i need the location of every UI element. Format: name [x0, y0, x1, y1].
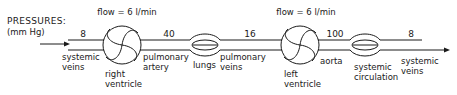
label-left-ventricle: left — [284, 69, 298, 79]
pressure-value: 100 — [326, 29, 343, 39]
label-systemic-circulation: circulation — [354, 72, 398, 82]
flow-label-left: flow = 6 l/min — [276, 7, 335, 17]
label-pulmonary-artery: pulmonary — [143, 52, 189, 62]
input-arrow-icon — [40, 42, 70, 47]
vessel-systemic-veins-out — [380, 40, 422, 50]
label-pulmonary-veins: veins — [220, 62, 243, 72]
label-systemic-veins-in: veins — [62, 62, 85, 72]
vessel-aorta — [322, 40, 350, 50]
pressure-value: 40 — [163, 29, 175, 39]
output-arrow-icon — [422, 48, 450, 53]
pressure-value: 8 — [408, 29, 414, 39]
label-pulmonary-veins: pulmonary — [220, 52, 266, 62]
systemic-circulation-icon — [350, 34, 380, 56]
right-ventricle-pump-icon — [100, 26, 144, 64]
vessel-pulmonary-veins — [220, 40, 278, 50]
circulation-diagram: PRESSURES: (mm Hg) 8 systemic veins flow… — [0, 0, 457, 95]
left-ventricle-pump-icon — [278, 26, 322, 64]
label-right-ventricle: ventricle — [105, 79, 142, 89]
label-systemic-veins-in: systemic — [62, 52, 100, 62]
label-systemic-veins-out: systemic — [401, 56, 439, 66]
lungs-icon — [190, 34, 220, 56]
label-aorta: aorta — [320, 56, 342, 66]
label-lungs: lungs — [193, 60, 217, 70]
label-systemic-circulation: systemic — [354, 62, 392, 72]
label-left-ventricle: ventricle — [284, 79, 321, 89]
pressures-units: (mm Hg) — [7, 27, 45, 37]
flow-label-right: flow = 6 l/min — [97, 7, 156, 17]
label-systemic-veins-out: veins — [401, 66, 424, 76]
vessel-systemic-veins-in — [68, 40, 100, 50]
label-pulmonary-artery: artery — [143, 62, 169, 72]
pressure-value: 16 — [244, 29, 256, 39]
pressures-title: PRESSURES: — [7, 16, 66, 26]
pressure-value: 8 — [80, 29, 86, 39]
vessel-pulmonary-artery — [144, 40, 190, 50]
label-right-ventricle: right — [105, 69, 126, 79]
